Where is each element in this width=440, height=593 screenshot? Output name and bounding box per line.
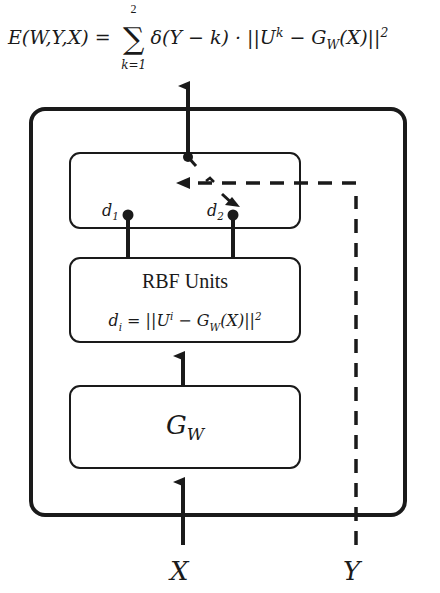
d2-dot (228, 210, 239, 221)
d1-label-text: d (102, 201, 112, 220)
rbf-formula-end: (X)|| (220, 311, 255, 330)
sum-lower-limit: k=1 (119, 58, 149, 72)
d2-label-text: d (207, 201, 217, 220)
sum-upper-limit: 2 (119, 2, 149, 17)
d1-label: d1 (102, 201, 119, 222)
equation-minus-g: − G (283, 26, 326, 48)
y-control-arrowhead (176, 177, 190, 189)
rbf-units-title: RBF Units (70, 270, 300, 293)
equation-square: 2 (380, 26, 388, 40)
gw-label-g: G (166, 410, 187, 440)
equation-end: (X)|| (339, 26, 380, 48)
equation-sub-w: W (327, 38, 340, 52)
rbf-formula-square: 2 (255, 310, 262, 322)
d2-label: d2 (207, 201, 224, 222)
d2-label-sub: 2 (217, 210, 224, 222)
equation-rhs: δ(Y − k) · ||U (151, 26, 276, 48)
energy-equation: E(W,Y,X) = 2∑k=1δ(Y − k) · ||Uk − GW(X)|… (8, 24, 388, 54)
d1-label-sub: 1 (112, 210, 119, 222)
rbf-formula-d: d (108, 311, 118, 330)
x-input-label: X (170, 556, 189, 586)
diagram-lines (0, 0, 440, 593)
equation-lhs: E(W,Y,X) = (8, 26, 117, 48)
d1-dot (123, 210, 134, 221)
rbf-formula-eq: = ||U (122, 311, 170, 330)
gw-label-w: W (187, 424, 204, 444)
rbf-formula-sub-w: W (210, 321, 221, 333)
rbf-formula: di = ||Ui − GW(X)||2 (70, 310, 300, 333)
rbf-formula-g: − G (173, 311, 209, 330)
gw-label: GW (70, 410, 300, 444)
sum-symbol: ∑ (123, 21, 144, 56)
y-input-label: Y (343, 556, 360, 586)
diagram-canvas: E(W,Y,X) = 2∑k=1δ(Y − k) · ||Uk − GW(X)|… (0, 0, 440, 593)
summation: 2∑k=1 (119, 24, 149, 54)
